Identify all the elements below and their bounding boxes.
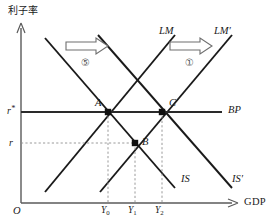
lm-curve-label: LM [159, 26, 174, 37]
is-prime-mark: ′ [241, 173, 243, 184]
is-prime-base: IS [232, 173, 241, 184]
x-tick-label-y1: Y1 [128, 206, 137, 216]
point-marker-a [105, 109, 111, 115]
point-label-b: B [142, 137, 148, 148]
y-tick-label-r: r [9, 138, 13, 148]
lm-prime-mark: ′ [229, 25, 231, 36]
point-marker-c [159, 109, 165, 115]
shift-arrow-right [170, 38, 212, 54]
y1-subscript: 1 [133, 209, 136, 216]
y2-subscript: 2 [160, 209, 163, 216]
origin-label: O [13, 206, 21, 217]
x-tick-label-y0: Y0 [101, 206, 110, 216]
shift-arrow-right-label: ① [185, 58, 194, 68]
point-label-a: A [95, 98, 101, 109]
guide-lines-group [21, 112, 162, 203]
shift-arrow-left-label: ⑤ [81, 58, 90, 68]
lm-prime-curve-label: LM′ [214, 26, 231, 37]
point-label-c: C [169, 98, 176, 109]
y-axis-label: 利子率 [8, 6, 38, 16]
y0-subscript: 0 [106, 209, 109, 216]
is-curve-label: IS [181, 174, 190, 185]
point-marker-b [132, 140, 138, 146]
is-prime-curve-label: IS′ [232, 174, 243, 185]
bp-curve-label: BP [228, 105, 241, 116]
isLM-bp-diagram: 利子率 GDP O LM LM′ IS IS′ BP A B C r* r Y0… [0, 0, 277, 224]
y-tick-label-r-star: r* [7, 106, 15, 116]
shift-arrows-group [66, 38, 212, 54]
r-star-superscript: * [11, 104, 15, 113]
x-tick-label-y2: Y2 [155, 206, 164, 216]
x-axis-label: GDP [244, 197, 266, 208]
points-group [105, 109, 165, 146]
lm-prime-base: LM [214, 25, 229, 36]
curves-group [21, 35, 232, 192]
